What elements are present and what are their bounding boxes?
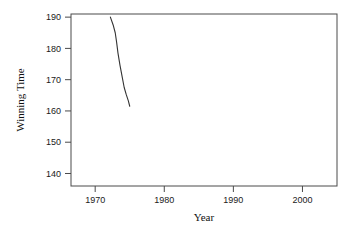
x-axis-title: Year xyxy=(194,211,215,223)
plot-background xyxy=(71,14,337,186)
y-tick-label: 160 xyxy=(46,106,61,116)
x-tick-label: 2000 xyxy=(292,195,312,205)
chart-page: 140150160170180190 1970198019902000 Year… xyxy=(0,0,354,231)
line-chart: 140150160170180190 1970198019902000 Year… xyxy=(0,0,354,231)
y-tick-label: 180 xyxy=(46,44,61,54)
y-axis-title: Winning Time xyxy=(14,68,26,132)
y-axis-ticks xyxy=(65,17,71,173)
x-axis-tick-labels: 1970198019902000 xyxy=(85,195,312,205)
y-tick-label: 150 xyxy=(46,137,61,147)
y-tick-label: 140 xyxy=(46,169,61,179)
y-tick-label: 170 xyxy=(46,75,61,85)
x-tick-label: 1990 xyxy=(223,195,243,205)
y-axis-tick-labels: 140150160170180190 xyxy=(46,12,61,178)
x-tick-label: 1970 xyxy=(85,195,105,205)
x-axis-ticks xyxy=(95,186,302,192)
y-tick-label: 190 xyxy=(46,12,61,22)
x-tick-label: 1980 xyxy=(154,195,174,205)
